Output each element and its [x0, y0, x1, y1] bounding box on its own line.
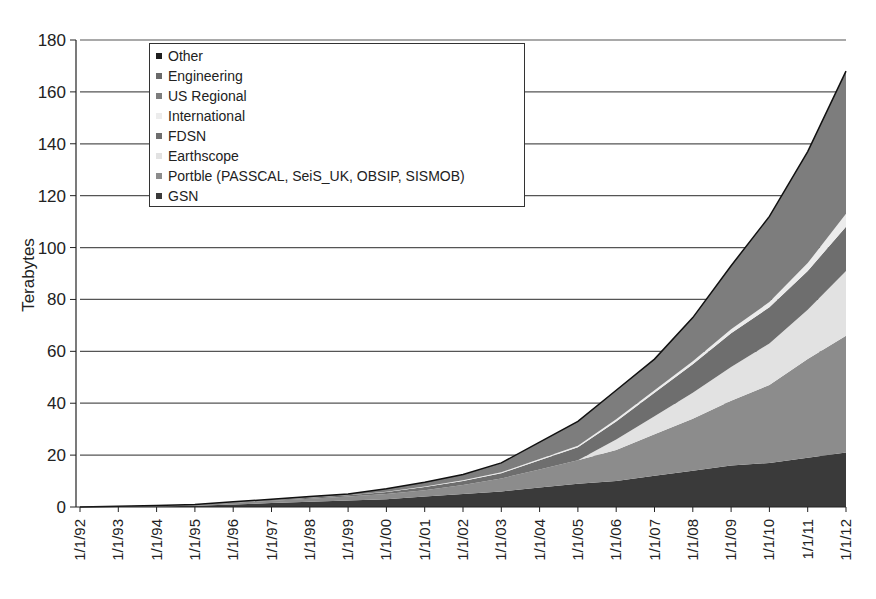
- legend-item: GSN: [156, 186, 524, 206]
- x-tick-label: 1/1/03: [492, 519, 509, 561]
- y-tick-label: 100: [38, 239, 66, 258]
- legend-swatch-icon: [156, 153, 162, 159]
- x-tick-label: 1/1/97: [263, 519, 280, 561]
- legend-swatch-icon: [156, 53, 162, 59]
- y-tick-label: 0: [57, 498, 66, 517]
- legend-item: FDSN: [156, 126, 524, 146]
- legend-label: Engineering: [168, 68, 243, 84]
- y-tick-label: 60: [47, 342, 66, 361]
- legend-label: Other: [168, 48, 203, 64]
- x-tick-label: 1/1/02: [454, 519, 471, 561]
- x-tick-label: 1/1/98: [301, 519, 318, 561]
- legend-swatch-icon: [156, 193, 162, 199]
- y-axis-ticks: 020406080100120140160180: [38, 31, 76, 517]
- y-tick-label: 40: [47, 394, 66, 413]
- x-axis-ticks: 1/1/921/1/931/1/941/1/951/1/961/1/971/1/…: [71, 507, 854, 561]
- y-tick-label: 20: [47, 446, 66, 465]
- y-axis-label: Terabytes: [19, 225, 39, 325]
- legend-item: Other: [156, 46, 524, 66]
- legend-label: Portble (PASSCAL, SeiS_UK, OBSIP, SISMOB…: [168, 168, 465, 184]
- x-tick-label: 1/1/93: [109, 519, 126, 561]
- x-tick-label: 1/1/94: [148, 519, 165, 561]
- x-tick-label: 1/1/96: [224, 519, 241, 561]
- x-tick-label: 1/1/12: [837, 519, 854, 561]
- legend-label: GSN: [168, 188, 198, 204]
- y-tick-label: 120: [38, 187, 66, 206]
- legend-swatch-icon: [156, 73, 162, 79]
- legend: OtherEngineeringUS RegionalInternational…: [149, 43, 525, 207]
- x-tick-label: 1/1/10: [760, 519, 777, 561]
- x-tick-label: 1/1/95: [186, 519, 203, 561]
- legend-label: Earthscope: [168, 148, 239, 164]
- x-tick-label: 1/1/99: [339, 519, 356, 561]
- legend-label: International: [168, 108, 245, 124]
- y-tick-label: 180: [38, 31, 66, 50]
- y-tick-label: 80: [47, 290, 66, 309]
- x-tick-label: 1/1/92: [71, 519, 88, 561]
- x-tick-label: 1/1/07: [646, 519, 663, 561]
- x-tick-label: 1/1/04: [531, 519, 548, 561]
- y-tick-label: 140: [38, 135, 66, 154]
- legend-swatch-icon: [156, 173, 162, 179]
- y-tick-label: 160: [38, 83, 66, 102]
- x-tick-label: 1/1/00: [377, 519, 394, 561]
- x-tick-label: 1/1/09: [722, 519, 739, 561]
- legend-item: Portble (PASSCAL, SeiS_UK, OBSIP, SISMOB…: [156, 166, 524, 186]
- legend-item: US Regional: [156, 86, 524, 106]
- x-tick-label: 1/1/11: [799, 519, 816, 560]
- legend-swatch-icon: [156, 133, 162, 139]
- x-tick-label: 1/1/01: [416, 519, 433, 561]
- legend-item: Engineering: [156, 66, 524, 86]
- legend-item: International: [156, 106, 524, 126]
- legend-swatch-icon: [156, 93, 162, 99]
- x-tick-label: 1/1/05: [569, 519, 586, 561]
- legend-label: US Regional: [168, 88, 247, 104]
- x-tick-label: 1/1/08: [684, 519, 701, 561]
- legend-swatch-icon: [156, 113, 162, 119]
- legend-label: FDSN: [168, 128, 206, 144]
- x-tick-label: 1/1/06: [607, 519, 624, 561]
- legend-item: Earthscope: [156, 146, 524, 166]
